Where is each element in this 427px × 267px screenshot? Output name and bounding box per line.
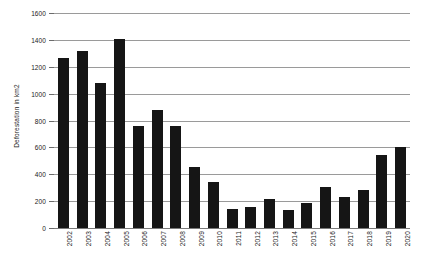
x-axis-tick-label: 2008	[179, 231, 186, 246]
x-axis-tick-label: 2010	[216, 231, 223, 246]
y-axis-tick-label: 200	[35, 198, 46, 205]
bar	[95, 83, 106, 228]
y-axis-tick-label: 400	[35, 171, 46, 178]
y-axis-tick-label: 1000	[31, 90, 46, 97]
x-axis-tick-label: 2011	[235, 231, 242, 246]
bar	[245, 207, 256, 229]
y-axis-title-label: Deforestation in km2	[13, 84, 20, 148]
bar	[264, 199, 275, 228]
y-axis-tick-label: 1200	[31, 63, 46, 70]
y-axis-tick-label: 800	[35, 117, 46, 124]
bar	[208, 182, 219, 228]
bar	[152, 110, 163, 228]
bar	[227, 209, 238, 228]
deforestation-bar-chart: Deforestation in km2 0200400600800100012…	[0, 0, 427, 267]
y-axis-title: Deforestation in km2	[8, 0, 24, 232]
x-axis-tick-label: 2006	[141, 231, 148, 246]
bar	[339, 197, 350, 228]
x-axis-tick-label: 2018	[366, 231, 373, 246]
bar	[77, 51, 88, 228]
x-axis-tick-label: 2004	[104, 231, 111, 246]
y-axis-tick-label: 0	[42, 225, 46, 232]
gridline	[54, 228, 410, 229]
x-axis-tick-label: 2017	[347, 231, 354, 246]
bar	[133, 126, 144, 228]
x-axis-tick-label: 2012	[254, 231, 261, 246]
x-axis-tick-label: 2020	[404, 231, 411, 246]
y-axis-tick-mark	[49, 228, 54, 229]
x-axis-tick-label: 2005	[123, 231, 130, 246]
x-axis-tick-label: 2002	[66, 231, 73, 246]
x-axis-tick-label: 2009	[198, 231, 205, 246]
x-axis-labels: 2002200320042005200620072008200920102011…	[54, 231, 410, 267]
plot-area: 02004006008001000120014001600	[54, 13, 410, 228]
bar	[58, 58, 69, 228]
x-axis-tick-label: 2003	[85, 231, 92, 246]
bar	[189, 167, 200, 228]
x-axis-tick-label: 2019	[385, 231, 392, 246]
bar	[170, 126, 181, 228]
x-axis-tick-label: 2013	[272, 231, 279, 246]
bars-layer	[54, 13, 410, 228]
y-axis-tick-label: 1600	[31, 10, 46, 17]
bar	[358, 190, 369, 228]
x-axis-tick-label: 2016	[329, 231, 336, 246]
y-axis-tick-label: 600	[35, 144, 46, 151]
x-axis-tick-label: 2015	[310, 231, 317, 246]
y-axis-tick-label: 1400	[31, 36, 46, 43]
bar	[395, 147, 406, 228]
bar	[114, 39, 125, 228]
bar	[320, 187, 331, 228]
x-axis-tick-label: 2014	[291, 231, 298, 246]
bar	[283, 210, 294, 228]
x-axis-tick-label: 2007	[160, 231, 167, 246]
bar	[301, 203, 312, 228]
bar	[376, 155, 387, 228]
